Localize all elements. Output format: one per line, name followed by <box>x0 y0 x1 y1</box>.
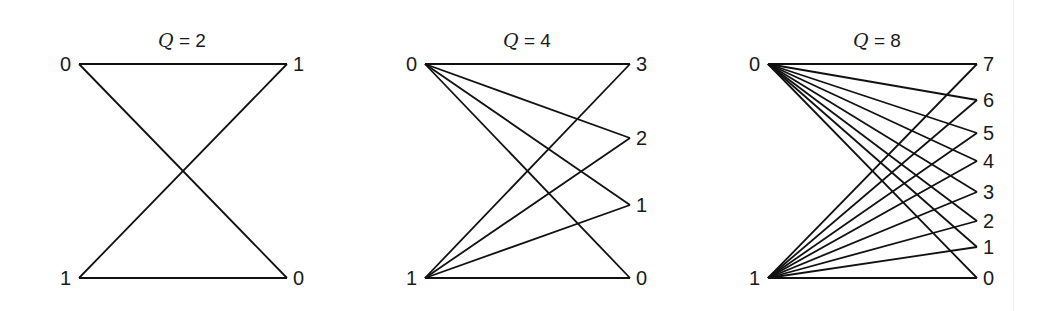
title-variable: Q <box>503 29 519 51</box>
edge-0-to-1 <box>425 64 630 205</box>
left-node-label: 1 <box>60 267 71 289</box>
left-node-label: 0 <box>749 53 760 75</box>
edge-0-to-2 <box>425 64 630 138</box>
right-node-label: 2 <box>636 127 647 149</box>
right-node-label: 1 <box>293 53 304 75</box>
panel-title: Q = 2 <box>158 29 206 51</box>
edges <box>79 64 287 278</box>
edge-0-to-4 <box>768 64 977 161</box>
right-node-label: 0 <box>636 267 647 289</box>
title-value: = 4 <box>519 30 552 51</box>
edge-0-to-6 <box>768 64 977 100</box>
panel-q2: Q = 20110 <box>60 29 304 289</box>
panel-q4: Q = 4013210 <box>406 29 647 289</box>
right-node-label: 6 <box>983 89 994 111</box>
right-node-label: 1 <box>983 236 994 258</box>
title-variable: Q <box>158 29 174 51</box>
right-node-label: 1 <box>636 194 647 216</box>
right-node-label: 4 <box>983 150 994 172</box>
edge-0-to-3 <box>768 64 977 192</box>
left-node-label: 1 <box>749 267 760 289</box>
right-node-label: 5 <box>983 122 994 144</box>
left-node-label: 0 <box>406 53 417 75</box>
edge-1-to-2 <box>425 138 630 278</box>
right-node-label: 7 <box>983 53 994 75</box>
edge-1-to-1 <box>425 205 630 278</box>
edges <box>768 64 977 278</box>
title-value: = 2 <box>174 30 206 51</box>
panel-title: Q = 4 <box>503 29 551 51</box>
right-node-label: 3 <box>983 181 994 203</box>
right-node-label: 2 <box>983 210 994 232</box>
bipartite-mapping-figure: Q = 20110Q = 4013210Q = 80176543210 <box>0 0 1044 311</box>
right-node-label: 0 <box>293 267 304 289</box>
left-node-label: 1 <box>406 267 417 289</box>
left-node-label: 0 <box>60 53 71 75</box>
title-variable: Q <box>853 29 869 51</box>
edges <box>425 64 630 278</box>
edge-1-to-2 <box>768 221 977 278</box>
right-node-label: 3 <box>636 53 647 75</box>
title-value: = 8 <box>869 30 901 51</box>
panels-group: Q = 20110Q = 4013210Q = 80176543210 <box>60 29 994 289</box>
panel-title: Q = 8 <box>853 29 901 51</box>
edge-0-to-2 <box>768 64 977 221</box>
edge-0-to-5 <box>768 64 977 133</box>
panel-q8: Q = 80176543210 <box>749 29 994 289</box>
right-node-label: 0 <box>983 267 994 289</box>
